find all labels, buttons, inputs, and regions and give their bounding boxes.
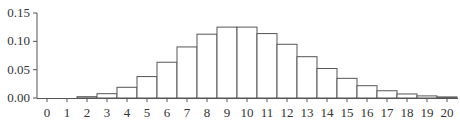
x-tick-label: 9 <box>224 105 231 120</box>
x-tick-label: 17 <box>381 105 395 120</box>
y-tick-label: 0.10 <box>7 33 30 48</box>
x-tick-label: 12 <box>281 105 294 120</box>
bar-15 <box>337 78 357 98</box>
x-tick-label: 13 <box>301 105 314 120</box>
bar-12 <box>277 44 297 98</box>
bar-20 <box>437 97 457 98</box>
x-tick-label: 1 <box>64 105 71 120</box>
x-ticks-group: 01234567891011121314151617181920 <box>44 98 454 120</box>
bar-8 <box>197 34 217 98</box>
x-tick-label: 14 <box>321 105 335 120</box>
bar-4 <box>117 87 137 98</box>
bar-2 <box>77 97 97 98</box>
x-tick-label: 10 <box>241 105 254 120</box>
x-tick-label: 0 <box>44 105 51 120</box>
bar-16 <box>357 86 377 98</box>
bar-18 <box>397 94 417 98</box>
x-tick-label: 4 <box>124 105 131 120</box>
bars-group <box>77 27 457 98</box>
y-tick-label: 0.00 <box>7 90 30 105</box>
bar-10 <box>237 27 257 98</box>
bar-7 <box>177 47 197 98</box>
bar-17 <box>377 91 397 98</box>
x-tick-label: 19 <box>421 105 434 120</box>
x-tick-label: 16 <box>361 105 375 120</box>
bar-11 <box>257 34 277 98</box>
bar-6 <box>157 62 177 98</box>
x-tick-label: 3 <box>104 105 111 120</box>
x-tick-label: 6 <box>164 105 171 120</box>
x-tick-label: 8 <box>204 105 211 120</box>
x-tick-label: 15 <box>341 105 354 120</box>
histogram-chart: 0.000.050.100.15 01234567891011121314151… <box>0 0 460 124</box>
bar-3 <box>97 94 117 98</box>
y-tick-label: 0.15 <box>7 5 30 20</box>
x-tick-label: 18 <box>401 105 414 120</box>
x-tick-label: 7 <box>184 105 191 120</box>
bar-5 <box>137 77 157 98</box>
bar-13 <box>297 57 317 98</box>
y-ticks-group: 0.000.050.100.15 <box>7 5 37 105</box>
x-tick-label: 11 <box>261 105 274 120</box>
x-tick-label: 20 <box>441 105 454 120</box>
bar-14 <box>317 68 337 98</box>
x-tick-label: 5 <box>144 105 151 120</box>
bar-19 <box>417 96 437 98</box>
x-tick-label: 2 <box>84 105 91 120</box>
bar-9 <box>217 27 237 98</box>
y-tick-label: 0.05 <box>7 62 30 77</box>
